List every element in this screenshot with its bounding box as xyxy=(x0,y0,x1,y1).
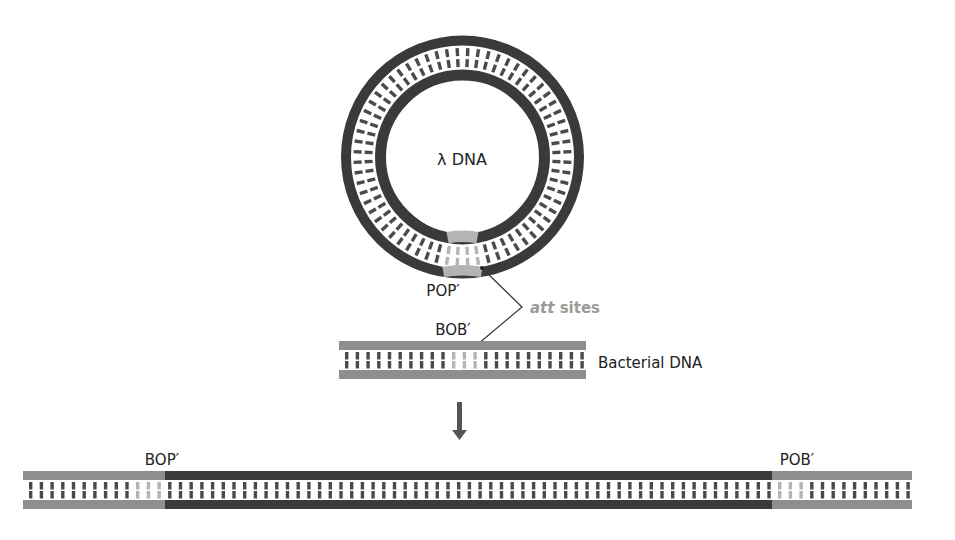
att-sites-label: att sites xyxy=(530,299,600,317)
att-connector-lines xyxy=(476,266,522,346)
lambda-integration-diagram: λ DNA POP′ att sites BOB′ Bacterial DNA … xyxy=(0,0,955,540)
bacterial-dna-label: Bacterial DNA xyxy=(598,354,703,372)
pob-label: POB′ xyxy=(780,451,815,469)
pop-label: POP′ xyxy=(426,282,460,300)
bacterial-dna-strand xyxy=(339,341,586,379)
att-rest: sites xyxy=(554,299,600,317)
bob-label: BOB′ xyxy=(435,321,471,339)
bop-label: BOP′ xyxy=(145,451,180,469)
integrated-dna-strand xyxy=(23,471,912,509)
lambda-dna-label: λ DNA xyxy=(437,150,487,169)
down-arrow-icon xyxy=(452,402,467,440)
att-italic: att xyxy=(530,299,555,317)
